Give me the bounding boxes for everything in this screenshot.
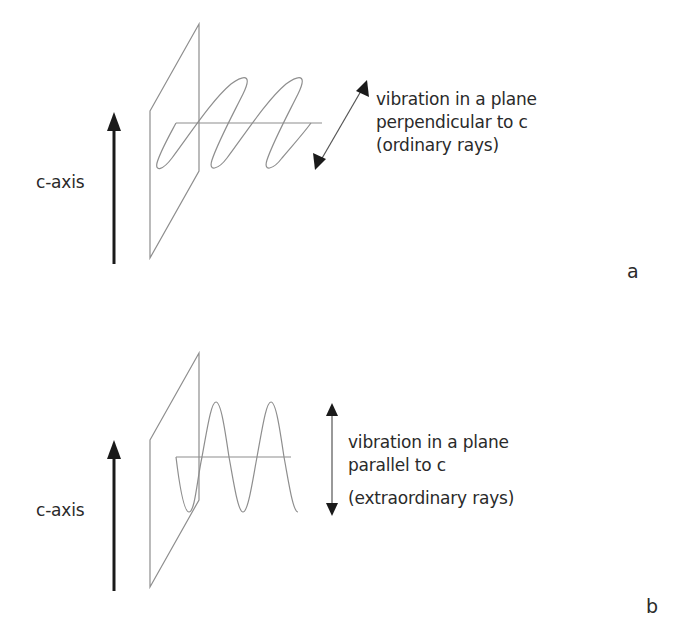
plane-a — [150, 24, 199, 258]
c-axis-arrow-a — [107, 112, 121, 264]
c-axis-arrow-b — [107, 440, 121, 591]
description-a-line-2: perpendicular to c — [376, 111, 537, 134]
description-a-line-1: vibration in a plane — [376, 88, 537, 111]
description-b-line-3: (extraordinary rays) — [348, 487, 514, 510]
plane-b — [150, 353, 199, 587]
panel-label-a: a — [627, 262, 639, 281]
description-a: vibration in a plane perpendicular to c … — [376, 88, 537, 157]
diagram-canvas — [0, 0, 683, 644]
description-a-line-3: (ordinary rays) — [376, 134, 537, 157]
description-b: vibration in a plane parallel to c (extr… — [348, 431, 514, 510]
vibration-direction-arrow-a — [313, 80, 369, 170]
description-b-line-1: vibration in a plane — [348, 431, 514, 454]
vibration-direction-arrow-b — [326, 403, 338, 516]
panel-label-b: b — [646, 597, 658, 616]
panel-a — [107, 24, 369, 264]
c-axis-label-a: c-axis — [36, 174, 84, 191]
c-axis-label-b: c-axis — [36, 502, 84, 519]
description-b-line-2: parallel to c — [348, 454, 514, 477]
panel-b — [107, 353, 338, 591]
